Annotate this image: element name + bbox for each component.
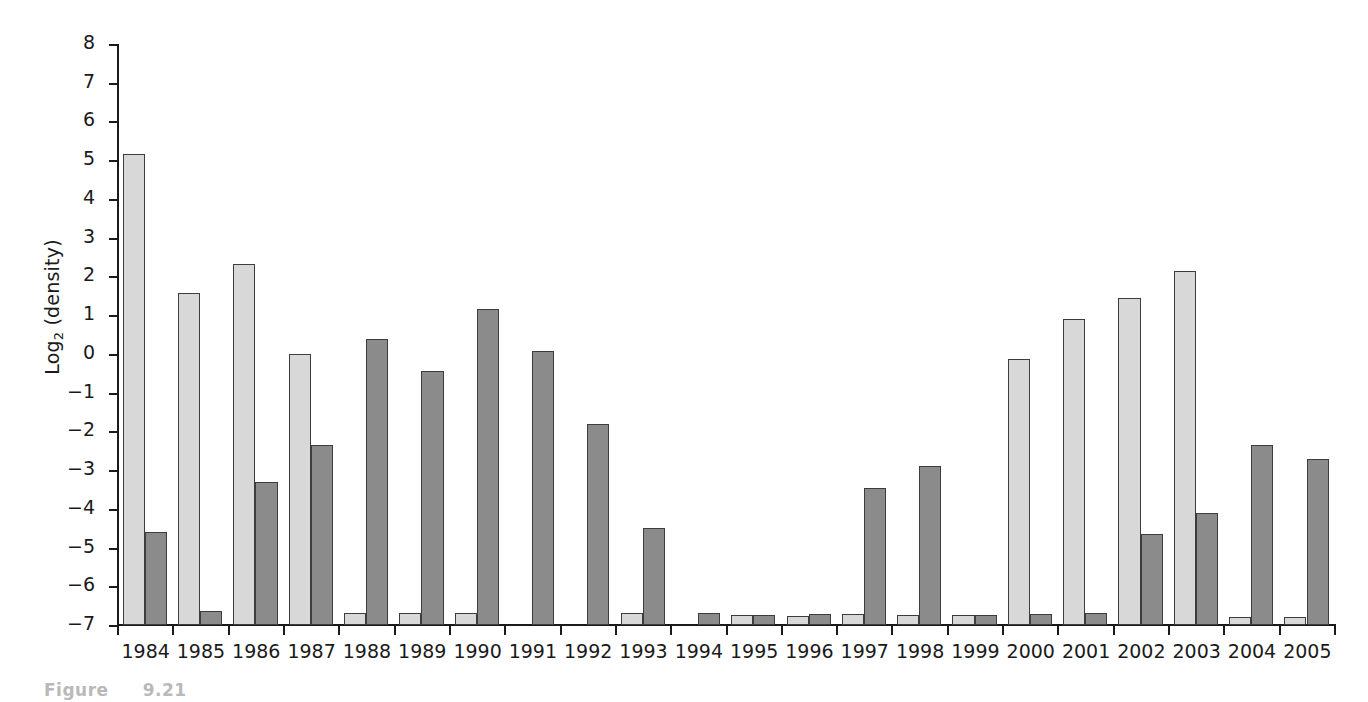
y-axis-title-subscript: 2 [51,332,66,340]
bar-dark-1988 [366,339,388,625]
y-axis-tick: 2 [109,276,118,278]
plot-area: 876543210−1−2−3−4−5−6−7 1984198519861987… [118,44,1335,625]
y-axis-tick-label: 3 [83,227,95,246]
x-axis-label-1996: 1996 [782,640,837,662]
y-axis-tick-label: 4 [83,188,95,207]
bar-group [727,44,782,625]
figure-container: Log2 (density) 876543210−1−2−3−4−5−6−7 1… [0,0,1368,702]
x-axis-tick [1057,625,1059,635]
bar-group [173,44,228,625]
x-axis-tick [670,625,672,635]
y-axis-tick-label: −1 [67,382,95,401]
bar-group [782,44,837,625]
x-axis-tick [726,625,728,635]
bar-dark-1990 [477,309,499,625]
y-axis-tick-label: 5 [83,149,95,168]
x-axis-label-2002: 2002 [1114,640,1169,662]
y-axis-tick-label: 8 [83,33,95,52]
x-axis-label-2005: 2005 [1280,640,1335,662]
y-axis-tick: −3 [109,470,118,472]
y-axis-tick: 6 [109,121,118,123]
y-axis-tick-label: 2 [83,265,95,284]
x-axis-label-1999: 1999 [948,640,1003,662]
x-axis-label-1984: 1984 [118,640,173,662]
y-axis-tick-label: −6 [67,575,95,594]
bar-light-1989 [399,613,421,625]
bar-light-2004 [1229,617,1251,625]
x-axis-label-1998: 1998 [892,640,947,662]
bar-light-2005 [1284,617,1306,625]
y-axis-tick: −5 [109,548,118,550]
x-axis-label-2000: 2000 [1003,640,1058,662]
y-axis-tick: 7 [109,83,118,85]
bar-light-1984 [123,154,145,625]
bar-light-1993 [621,613,643,625]
y-axis-tick: 4 [109,199,118,201]
bar-dark-2004 [1251,445,1273,625]
bar-group [1280,44,1335,625]
bar-light-1999 [952,615,974,625]
x-axis-label-1993: 1993 [616,640,671,662]
bar-group [450,44,505,625]
bar-dark-1986 [255,482,277,625]
x-axis-tick [283,625,285,635]
bar-group [1169,44,1224,625]
x-axis-label-1997: 1997 [837,640,892,662]
bar-dark-2000 [1030,614,1052,625]
y-axis-title-main: Log [41,340,63,375]
x-axis-label-1994: 1994 [671,640,726,662]
bar-group [1058,44,1113,625]
bar-light-1987 [289,354,311,625]
x-axis-label-1991: 1991 [505,640,560,662]
y-axis-tick: 1 [109,315,118,317]
bar-light-1996 [787,616,809,625]
x-axis-label-1985: 1985 [173,640,228,662]
x-axis-label-1988: 1988 [339,640,394,662]
bar-group [1003,44,1058,625]
bar-dark-1985 [200,611,222,625]
x-axis-label-2001: 2001 [1058,640,1113,662]
x-axis-label-2003: 2003 [1169,640,1224,662]
x-axis-label-2004: 2004 [1224,640,1279,662]
y-axis-tick-label: −7 [67,614,95,633]
y-axis-tick-label: −5 [67,537,95,556]
bar-light-1990 [455,613,477,625]
x-axis-tick [836,625,838,635]
x-axis-tick [172,625,174,635]
y-axis-title-suffix: (density) [41,239,63,332]
bar-dark-2003 [1196,513,1218,625]
bar-dark-1991 [532,351,554,625]
x-axis-label-1992: 1992 [561,640,616,662]
figure-caption-number: 9.21 [143,680,187,700]
x-axis-tick [228,625,230,635]
bar-light-2001 [1063,319,1085,625]
bar-dark-1993 [643,528,665,625]
x-axis-tick [781,625,783,635]
bar-dark-1995 [753,615,775,625]
bar-dark-1999 [975,615,997,625]
bar-group [561,44,616,625]
y-axis-tick: 5 [109,160,118,162]
y-axis-tick-label: 6 [83,110,95,129]
bar-group [671,44,726,625]
bar-light-2003 [1174,271,1196,625]
y-axis-tick-label: −2 [67,420,95,439]
bar-group [284,44,339,625]
bar-group [892,44,947,625]
x-axis-tick [1168,625,1170,635]
y-axis-tick-label: −3 [67,459,95,478]
y-axis-tick: 3 [109,238,118,240]
bar-light-1986 [233,264,255,625]
bar-dark-1997 [864,488,886,626]
x-axis-tick [947,625,949,635]
y-axis-tick: 0 [109,354,118,356]
bar-group [229,44,284,625]
y-axis-tick-label: 7 [83,72,95,91]
bar-dark-1992 [587,424,609,625]
x-axis-label-1987: 1987 [284,640,339,662]
x-axis-label-1995: 1995 [727,640,782,662]
bar-group [118,44,173,625]
bar-light-1997 [842,614,864,625]
figure-caption-prefix: Figure [44,680,109,700]
y-axis-tick: 8 [109,44,118,46]
